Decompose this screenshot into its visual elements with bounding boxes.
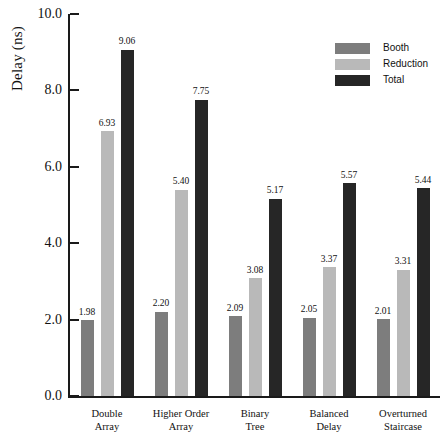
bar-reduction: 3.37 [323, 267, 336, 396]
chart-legend: BoothReductionTotal [335, 40, 428, 88]
y-axis-tick-label: 4.0 [2, 236, 62, 250]
bar-rect [303, 318, 316, 396]
bar-value-label: 3.08 [247, 266, 264, 276]
bar-booth: 2.05 [303, 318, 316, 396]
bar-rect [343, 183, 356, 396]
legend-item-total: Total [335, 72, 428, 88]
x-axis-category-label: BalancedDelay [292, 408, 366, 433]
bar-value-label: 2.20 [153, 299, 170, 309]
legend-swatch [335, 43, 370, 54]
bar-value-label: 5.57 [341, 171, 358, 181]
bar-total: 5.17 [269, 199, 282, 396]
x-axis-category-label: BinaryTree [218, 408, 292, 433]
legend-item-booth: Booth [335, 40, 428, 56]
category-label-line: Array [70, 421, 144, 434]
legend-swatch [335, 59, 370, 70]
x-axis-category-label: OverturnedStaircase [366, 408, 440, 433]
bar-total: 5.44 [417, 188, 430, 396]
y-axis-tick-label: 10.0 [2, 7, 62, 21]
bar-reduction: 3.31 [397, 270, 410, 396]
y-axis-tick-label: 6.0 [2, 160, 62, 174]
bar-rect [229, 316, 242, 396]
bar-value-label: 9.06 [119, 37, 136, 47]
bar-value-label: 6.93 [99, 119, 116, 129]
category-label-line: Higher Order [144, 408, 218, 421]
category-label-line: Delay [292, 421, 366, 434]
bar-rect [175, 190, 188, 396]
bar-total: 9.06 [121, 50, 134, 396]
bar-rect [417, 188, 430, 396]
bar-value-label: 2.05 [301, 305, 318, 315]
category-label-line: Balanced [292, 408, 366, 421]
bar-value-label: 7.75 [193, 87, 210, 97]
bar-rect [155, 312, 168, 396]
bar-rect [323, 267, 336, 396]
bar-total: 5.57 [343, 183, 356, 396]
bar-reduction: 6.93 [101, 131, 114, 396]
bar-group: 2.205.407.75 [144, 14, 218, 396]
y-axis-tick-label: 0.0 [2, 389, 62, 403]
y-axis-tick-label: 2.0 [2, 313, 62, 327]
legend-item-reduction: Reduction [335, 56, 428, 72]
bar-rect [397, 270, 410, 396]
bar-booth: 1.98 [81, 320, 94, 396]
bar-rect [195, 100, 208, 396]
bar-value-label: 5.17 [267, 186, 284, 196]
category-label-line: Staircase [366, 421, 440, 434]
x-axis-category-label: DoubleArray [70, 408, 144, 433]
bar-rect [249, 278, 262, 396]
bar-rect [101, 131, 114, 396]
bar-value-label: 1.98 [79, 308, 96, 318]
bar-chart: Delay (ns) 10.08.06.04.02.00.0 1.986.939… [0, 0, 447, 445]
bar-reduction: 3.08 [249, 278, 262, 396]
bar-total: 7.75 [195, 100, 208, 396]
bar-value-label: 5.44 [415, 176, 432, 186]
category-label-line: Overturned [366, 408, 440, 421]
bar-value-label: 2.09 [227, 304, 244, 314]
bar-value-label: 3.31 [395, 257, 412, 267]
bar-rect [81, 320, 94, 396]
bar-rect [269, 199, 282, 396]
y-axis-tick-label: 8.0 [2, 83, 62, 97]
bar-value-label: 5.40 [173, 177, 190, 187]
bar-rect [377, 319, 390, 396]
legend-label: Total [383, 75, 404, 85]
bar-value-label: 2.01 [375, 307, 392, 317]
legend-label: Reduction [383, 59, 428, 69]
bar-booth: 2.01 [377, 319, 390, 396]
bar-reduction: 5.40 [175, 190, 188, 396]
category-label-line: Binary [218, 408, 292, 421]
bar-booth: 2.09 [229, 316, 242, 396]
legend-swatch [335, 75, 370, 86]
bar-booth: 2.20 [155, 312, 168, 396]
x-axis-category-label: Higher OrderArray [144, 408, 218, 433]
category-label-line: Double [70, 408, 144, 421]
bar-group: 2.093.085.17 [218, 14, 292, 396]
bar-value-label: 3.37 [321, 255, 338, 265]
bar-group: 1.986.939.06 [70, 14, 144, 396]
bar-rect [121, 50, 134, 396]
x-axis-line [68, 396, 440, 398]
category-label-line: Tree [218, 421, 292, 434]
category-label-line: Array [144, 421, 218, 434]
legend-label: Booth [383, 43, 409, 53]
